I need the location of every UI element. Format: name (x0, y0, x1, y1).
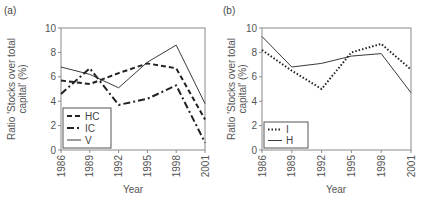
figure: (a) Ratio 'Stocks over total capital' (%… (0, 0, 432, 198)
y-axis-a: 0246810 (45, 23, 61, 156)
x-tick-label: 1998 (171, 155, 182, 178)
svg-text:capital' (%): capital' (%) (17, 64, 28, 113)
y-tick-label: 8 (251, 47, 257, 58)
y-tick-label: 10 (45, 23, 57, 34)
y-tick-label: 0 (50, 145, 56, 156)
y-tick-label: 6 (251, 71, 257, 82)
x-axis-a: 198619891992199519982001 (56, 150, 211, 177)
x-tick-label: 1989 (286, 155, 297, 178)
x-tick-label: 1986 (257, 155, 268, 178)
y-tick-label: 6 (50, 71, 56, 82)
y-tick-label: 10 (246, 23, 258, 34)
x-axis-title-a: Year (123, 184, 144, 195)
series-line-h (262, 37, 411, 93)
legend-a: HCICV (63, 108, 111, 148)
y-tick-label: 8 (50, 47, 56, 58)
x-tick-label: 1992 (113, 155, 124, 178)
legend-label: H (286, 135, 293, 146)
y-axis-title-b: Ratio 'Stocks over total capital' (%) (226, 38, 248, 140)
chart-panel-b: (b) Ratio 'Stocks over total capital' (%… (223, 5, 417, 195)
y-tick-label: 4 (50, 96, 56, 107)
y-tick-label: 2 (50, 120, 56, 131)
x-tick-label: 2001 (406, 155, 417, 178)
x-tick-label: 1995 (346, 155, 357, 178)
series-group-b (262, 37, 411, 93)
svg-text:Ratio 'Stocks over total: Ratio 'Stocks over total (226, 38, 237, 140)
y-axis-title-a: Ratio 'Stocks over total capital' (%) (6, 38, 28, 140)
x-tick-label: 1992 (316, 155, 327, 178)
y-tick-label: 2 (251, 120, 257, 131)
x-tick-label: 1989 (84, 155, 95, 178)
y-axis-b: 0246810 (246, 23, 262, 156)
legend-label: IC (85, 123, 95, 134)
x-tick-label: 1995 (142, 155, 153, 178)
panel-label-b: (b) (223, 5, 235, 16)
series-line-v (61, 45, 205, 104)
x-axis-title-b: Year (326, 184, 347, 195)
x-tick-label: 2001 (200, 155, 211, 178)
x-axis-b: 198619891992199519982001 (257, 150, 417, 177)
svg-text:capital' (%): capital' (%) (237, 64, 248, 113)
legend-label: I (286, 124, 289, 135)
series-line-i (262, 44, 411, 89)
y-tick-label: 4 (251, 96, 257, 107)
legend-b: IH (264, 122, 308, 148)
y-tick-label: 0 (251, 145, 257, 156)
svg-text:Ratio 'Stocks over total: Ratio 'Stocks over total (6, 38, 17, 140)
x-tick-label: 1998 (376, 155, 387, 178)
chart-panel-a: (a) Ratio 'Stocks over total capital' (%… (4, 5, 211, 195)
x-tick-label: 1986 (56, 155, 67, 178)
legend-label: HC (85, 111, 99, 122)
legend-label: V (85, 135, 92, 146)
panel-label-a: (a) (4, 5, 16, 16)
